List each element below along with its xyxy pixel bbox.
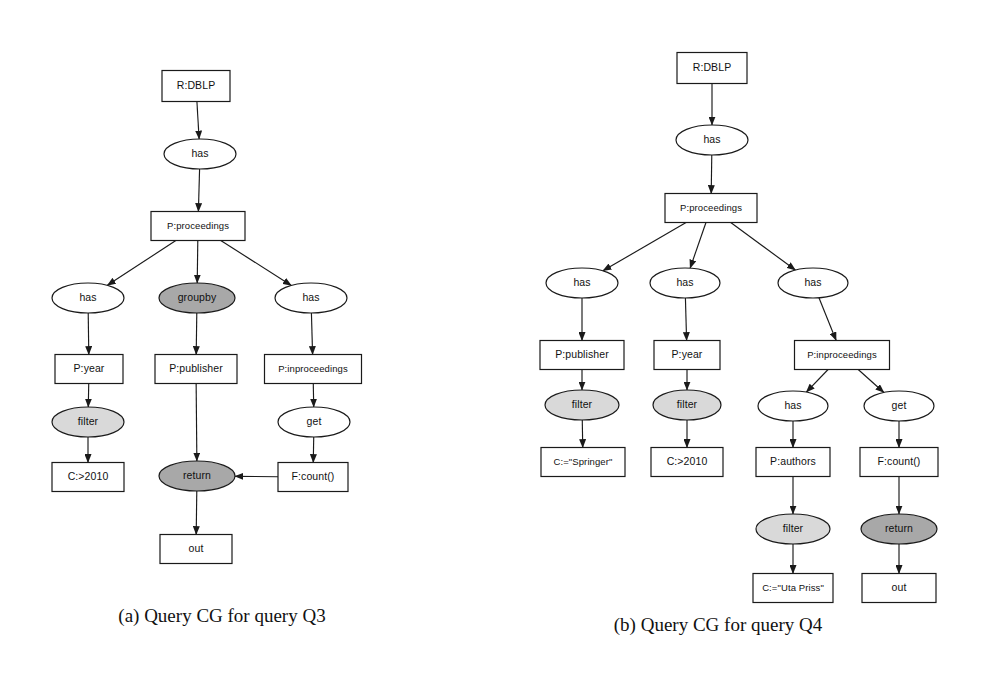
nodes-layer: R:DBLPhasP:proceedingshasgroupbyhasP:yea… — [52, 53, 938, 603]
node-label: C:="Springer" — [553, 456, 612, 467]
edge-b-proc-to-b-has3 — [690, 223, 706, 269]
edge-a-proc-to-a-has2 — [107, 241, 176, 286]
node-label: has — [302, 291, 319, 303]
edge-b-proc-to-b-has4 — [731, 223, 796, 271]
node-a-filter[interactable]: filter — [52, 407, 124, 437]
captions-layer: (a) Query CG for query Q3(b) Query CG fo… — [118, 605, 822, 636]
node-label: F:count() — [878, 455, 921, 467]
node-a-c2010[interactable]: C:>2010 — [52, 463, 124, 492]
edge-a-root-to-a-has1 — [197, 102, 199, 140]
node-b-filter2[interactable]: filter — [653, 390, 721, 420]
node-a-year[interactable]: P:year — [55, 355, 123, 384]
node-label: out — [189, 542, 204, 554]
node-b-count[interactable]: F:count() — [860, 448, 938, 477]
edge-a-proc-to-a-groupby — [197, 241, 198, 284]
edge-a-has1-to-a-proc — [198, 169, 199, 212]
node-b-has1[interactable]: has — [676, 125, 748, 155]
node-b-get[interactable]: get — [864, 391, 934, 421]
node-a-count[interactable]: F:count() — [278, 463, 348, 492]
node-label: has — [784, 399, 801, 411]
node-label: filter — [78, 415, 99, 427]
node-b-filter3[interactable]: filter — [756, 514, 830, 544]
node-label: P:proceedings — [167, 220, 229, 231]
edge-b-has1-to-b-proc — [711, 155, 712, 194]
edge-a-has3-to-a-inproc — [311, 313, 312, 355]
node-b-has5[interactable]: has — [758, 391, 828, 421]
edge-a-groupby-to-a-publisher — [196, 313, 197, 355]
node-a-out[interactable]: out — [160, 535, 232, 564]
node-label: filter — [783, 522, 804, 534]
node-label: get — [307, 415, 322, 427]
node-label: groupby — [178, 291, 217, 303]
node-label: C:>2010 — [667, 455, 708, 467]
node-label: P:year — [74, 362, 105, 374]
node-label: C:="Uta Priss" — [762, 582, 824, 593]
node-label: has — [79, 291, 96, 303]
edge-a-has2-to-a-year — [88, 313, 89, 355]
edge-b-has3-to-b-year — [685, 298, 686, 341]
node-label: filter — [677, 398, 698, 410]
node-b-filter1[interactable]: filter — [545, 390, 619, 420]
node-b-authors[interactable]: P:authors — [756, 448, 830, 477]
node-b-year[interactable]: P:year — [654, 341, 720, 370]
node-a-root[interactable]: R:DBLP — [162, 71, 230, 102]
node-b-out[interactable]: out — [862, 574, 936, 603]
conceptual-graph-diagram: R:DBLPhasP:proceedingshasgroupbyhasP:yea… — [0, 0, 989, 676]
node-label: out — [892, 581, 907, 593]
node-b-return[interactable]: return — [861, 514, 937, 544]
node-label: R:DBLP — [693, 61, 732, 73]
edge-b-inproc-to-b-get — [858, 370, 884, 393]
node-label: P:proceedings — [680, 202, 742, 213]
node-label: P:publisher — [169, 362, 223, 374]
node-a-proc[interactable]: P:proceedings — [151, 212, 245, 241]
edge-a-return-to-a-out — [196, 491, 197, 535]
node-b-has4[interactable]: has — [778, 268, 848, 298]
node-label: R:DBLP — [177, 79, 216, 91]
node-label: has — [703, 133, 720, 145]
node-label: P:inproceedings — [278, 363, 348, 374]
edge-b-inproc-to-b-has5 — [806, 370, 828, 393]
node-b-uta[interactable]: C:="Uta Priss" — [753, 574, 833, 603]
node-label: filter — [572, 398, 593, 410]
node-b-has2[interactable]: has — [546, 268, 618, 298]
node-b-proc[interactable]: P:proceedings — [665, 194, 757, 223]
node-label: get — [892, 399, 907, 411]
node-a-has3[interactable]: has — [275, 283, 347, 313]
node-a-return[interactable]: return — [159, 461, 235, 491]
node-label: P:inproceedings — [807, 349, 877, 360]
node-a-inproc[interactable]: P:inproceedings — [265, 355, 362, 384]
node-b-inproc[interactable]: P:inproceedings — [795, 341, 890, 370]
node-a-publisher[interactable]: P:publisher — [155, 355, 237, 384]
node-label: return — [183, 469, 211, 481]
node-a-has2[interactable]: has — [52, 283, 124, 313]
edge-b-has4-to-b-inproc — [819, 298, 836, 341]
node-label: has — [573, 276, 590, 288]
node-b-publisher[interactable]: P:publisher — [540, 341, 624, 370]
node-label: return — [885, 522, 913, 534]
node-a-get[interactable]: get — [278, 407, 350, 437]
edge-a-publisher-to-a-return — [196, 384, 197, 462]
caption-figure-b: (b) Query CG for query Q4 — [614, 614, 823, 636]
caption-figure-a: (a) Query CG for query Q3 — [118, 605, 325, 627]
node-label: has — [804, 276, 821, 288]
edge-a-proc-to-a-has3 — [221, 241, 292, 286]
figure-root: R:DBLPhasP:proceedingshasgroupbyhasP:yea… — [0, 0, 989, 676]
node-b-springer[interactable]: C:="Springer" — [541, 448, 625, 477]
node-a-has1[interactable]: has — [164, 139, 236, 169]
node-label: C:>2010 — [68, 470, 109, 482]
node-label: F:count() — [292, 470, 335, 482]
node-b-c2010[interactable]: C:>2010 — [651, 448, 723, 477]
node-a-groupby[interactable]: groupby — [159, 283, 235, 313]
node-b-has3[interactable]: has — [650, 268, 720, 298]
node-label: has — [191, 147, 208, 159]
node-label: P:publisher — [555, 348, 609, 360]
node-label: P:authors — [770, 455, 816, 467]
node-label: P:year — [672, 348, 703, 360]
edge-b-proc-to-b-has2 — [603, 223, 686, 271]
node-label: has — [676, 276, 693, 288]
node-b-root[interactable]: R:DBLP — [677, 53, 747, 84]
